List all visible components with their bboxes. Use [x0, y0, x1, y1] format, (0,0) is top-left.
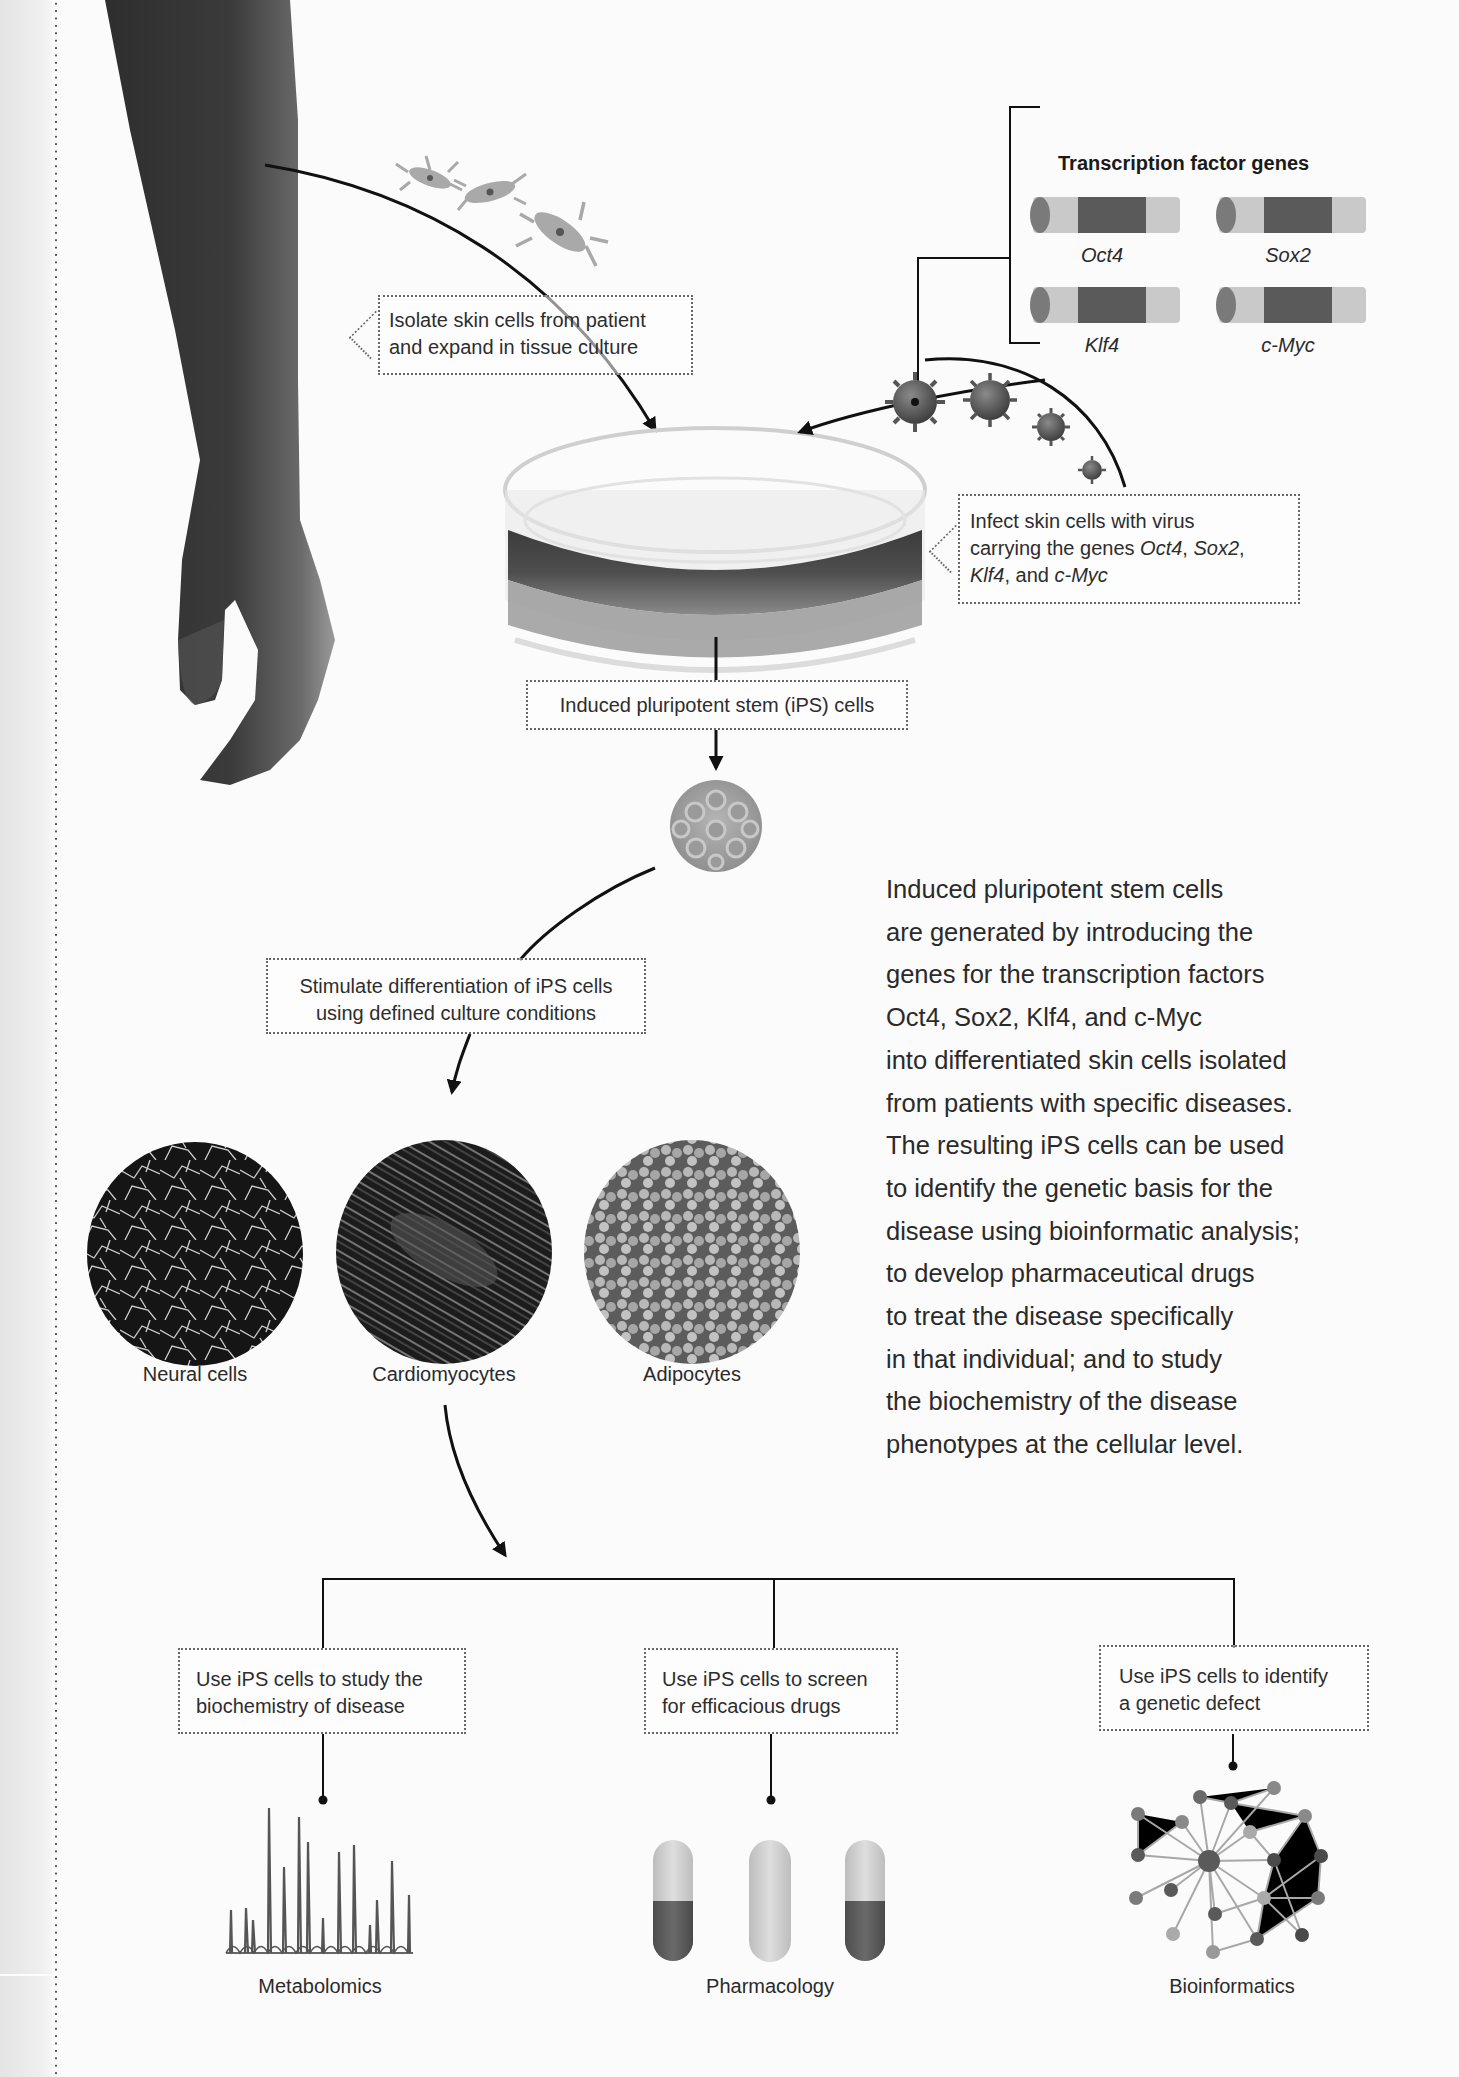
- step-infect-box: Infect skin cells with virus carrying th…: [958, 494, 1300, 604]
- gene-label-klf4: Klf4: [1022, 334, 1182, 357]
- step-stimulate-line1: Stimulate differentiation of iPS cells: [268, 973, 644, 1000]
- use-biochemistry-line1: Use iPS cells to study the: [196, 1666, 464, 1693]
- bioinformatics-network-icon: [1129, 1781, 1328, 1959]
- arm-hand-photo: [105, 0, 335, 785]
- gene-label-oct4: Oct4: [1022, 244, 1182, 267]
- neural-cells-image: [80, 1140, 310, 1370]
- description-line: to develop pharmaceutical drugs: [886, 1252, 1326, 1295]
- ips-cells-label-box: Induced pluripotent stem (iPS) cells: [526, 680, 908, 730]
- virus-icons: [885, 372, 1106, 484]
- description-line: The resulting iPS cells can be used: [886, 1124, 1326, 1167]
- use-genetic-line1: Use iPS cells to identify: [1119, 1663, 1367, 1690]
- cell-type-label-adipocytes: Adipocytes: [592, 1363, 792, 1386]
- description-line: Oct4, Sox2, Klf4, and c-Myc: [886, 996, 1326, 1039]
- description-line: genes for the transcription factors: [886, 953, 1326, 996]
- ips-cell-cluster-icon: [670, 780, 762, 872]
- use-box-biochemistry: Use iPS cells to study the biochemistry …: [178, 1648, 466, 1734]
- use-drugs-line1: Use iPS cells to screen: [662, 1666, 896, 1693]
- gene-label-cmyc: c-Myc: [1208, 334, 1368, 357]
- cardiomyocytes-image: [330, 1140, 560, 1370]
- petri-dish-photo: [505, 428, 925, 670]
- adipocytes-image: [580, 1140, 810, 1370]
- step-infect-line1: Infect skin cells with virus: [970, 508, 1298, 535]
- step-isolate-line2: and expand in tissue culture: [389, 334, 691, 361]
- description-line: to identify the genetic basis for the: [886, 1167, 1326, 1210]
- arrow-to-differentiated: [452, 1034, 470, 1092]
- description-line: phenotypes at the cellular level.: [886, 1423, 1326, 1466]
- description-paragraph: Induced pluripotent stem cells are gener…: [886, 868, 1326, 1466]
- step-infect-line3: Klf4, and c-Myc: [970, 562, 1298, 589]
- description-line: to treat the disease specifically: [886, 1295, 1326, 1338]
- step-stimulate-box: Stimulate differentiation of iPS cells u…: [266, 958, 646, 1034]
- use-drugs-line2: for efficacious drugs: [662, 1693, 896, 1720]
- description-line: into differentiated skin cells isolated: [886, 1039, 1326, 1082]
- use-box-drugs: Use iPS cells to screen for efficacious …: [644, 1648, 898, 1734]
- cell-type-label-cardiomyocytes: Cardiomyocytes: [344, 1363, 544, 1386]
- step-infect-line2: carrying the genes Oct4, Sox2,: [970, 535, 1298, 562]
- result-label-bioinformatics: Bioinformatics: [1132, 1975, 1332, 1998]
- cell-type-label-neural: Neural cells: [95, 1363, 295, 1386]
- gene-label-sox2: Sox2: [1208, 244, 1368, 267]
- step-stimulate-line2: using defined culture conditions: [268, 1000, 644, 1027]
- metabolomics-spectrum-icon: [226, 1808, 413, 1953]
- use-box-genetic-defect: Use iPS cells to identify a genetic defe…: [1099, 1645, 1369, 1731]
- step-isolate-box: Isolate skin cells from patient and expa…: [378, 295, 693, 375]
- description-line: are generated by introducing the: [886, 911, 1326, 954]
- result-label-pharmacology: Pharmacology: [670, 1975, 870, 1998]
- gene-panel-title: Transcription factor genes: [1058, 152, 1309, 175]
- uses-tree-connector: [323, 1579, 1234, 1648]
- use-genetic-line2: a genetic defect: [1119, 1690, 1367, 1717]
- description-line: in that individual; and to study: [886, 1338, 1326, 1381]
- skin-cells-icon: [396, 156, 608, 266]
- description-line: the biochemistry of the disease: [886, 1380, 1326, 1423]
- step-isolate-line1: Isolate skin cells from patient: [389, 307, 691, 334]
- description-line: Induced pluripotent stem cells: [886, 868, 1326, 911]
- description-line: from patients with specific diseases.: [886, 1082, 1326, 1125]
- arrow-to-uses: [445, 1405, 505, 1555]
- description-line: disease using bioinformatic analysis;: [886, 1210, 1326, 1253]
- use-biochemistry-line2: biochemistry of disease: [196, 1693, 464, 1720]
- result-label-metabolomics: Metabolomics: [220, 1975, 420, 1998]
